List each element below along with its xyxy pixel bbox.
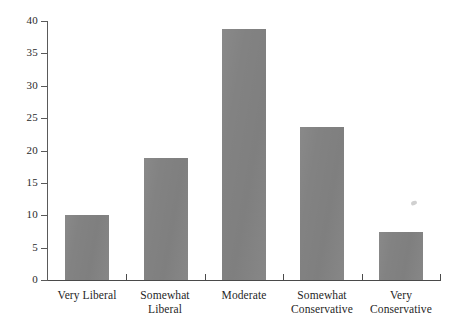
y-tick-mark <box>41 215 48 216</box>
bar <box>65 215 109 280</box>
bar-chart: 0510152025303540 Very LiberalSomewhatLib… <box>0 0 459 331</box>
bar <box>379 232 423 280</box>
x-axis-label-line: Liberal <box>126 302 204 316</box>
x-axis-label-line: Somewhat <box>126 288 204 302</box>
y-tick-label: 10 <box>2 209 38 220</box>
y-tick-mark <box>41 118 48 119</box>
bar <box>144 158 188 280</box>
bar-shading <box>65 215 109 280</box>
y-tick-mark <box>41 151 48 152</box>
x-axis-label-line: Very Liberal <box>48 288 126 302</box>
y-tick-label: 25 <box>2 112 38 123</box>
y-tick-mark <box>41 53 48 54</box>
y-tick-mark <box>41 248 48 249</box>
bar-shading <box>300 127 344 280</box>
y-tick-mark <box>41 21 48 22</box>
y-tick-label: 35 <box>2 47 38 58</box>
x-axis-label-line: Moderate <box>205 288 283 302</box>
x-tick-mark <box>362 274 363 281</box>
y-tick-mark <box>41 183 48 184</box>
scan-artifact <box>411 200 418 206</box>
y-tick-label: 40 <box>2 15 38 26</box>
bar-shading <box>379 232 423 280</box>
y-tick-label: 20 <box>2 145 38 156</box>
x-axis-label-line: Somewhat <box>283 288 361 302</box>
x-axis-line <box>47 280 440 281</box>
x-axis-label: VeryConservative <box>362 288 440 316</box>
y-tick-label: 5 <box>2 242 38 253</box>
x-tick-mark <box>126 274 127 281</box>
y-tick-mark <box>41 86 48 87</box>
y-tick-label: 30 <box>2 80 38 91</box>
y-tick-mark <box>41 280 48 281</box>
x-tick-mark <box>440 274 441 281</box>
x-tick-mark <box>205 274 206 281</box>
x-tick-mark <box>283 274 284 281</box>
x-axis-label-line: Very <box>362 288 440 302</box>
y-tick-label: 0 <box>2 274 38 285</box>
x-axis-label-line: Conservative <box>283 302 361 316</box>
x-axis-label: Moderate <box>205 288 283 302</box>
bar <box>300 127 344 280</box>
bar <box>222 29 266 280</box>
x-axis-label: SomewhatLiberal <box>126 288 204 316</box>
x-axis-label: Very Liberal <box>48 288 126 302</box>
bar-shading <box>222 29 266 280</box>
x-axis-label-line: Conservative <box>362 302 440 316</box>
x-axis-label: SomewhatConservative <box>283 288 361 316</box>
bar-shading <box>144 158 188 280</box>
y-tick-label: 15 <box>2 177 38 188</box>
